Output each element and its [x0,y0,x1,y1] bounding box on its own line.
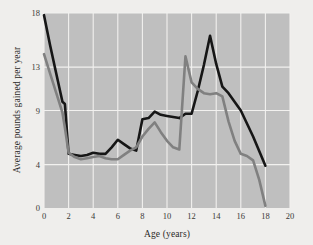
y-tick-label: 18 [32,8,41,18]
y-tick-label: 9 [36,106,40,116]
y-axis-title: Average pounds gained per year [12,30,22,190]
y-tick-label: 13 [32,62,41,72]
y-tick-label: 0 [36,203,40,213]
x-tick-label: 6 [116,211,120,221]
x-tick-label: 4 [91,211,95,221]
y-tick-label: 4 [36,160,40,170]
x-tick-label: 0 [42,211,46,221]
x-tick-label: 2 [66,211,70,221]
x-tick-label: 16 [237,211,246,221]
series-line-dark-series [44,15,265,166]
gridlines-group [44,13,290,208]
x-tick-label: 8 [140,211,144,221]
x-tick-label: 20 [286,211,295,221]
x-tick-label: 12 [187,211,196,221]
x-tick-label: 14 [212,211,221,221]
line-chart-canvas [0,0,313,245]
chart-figure: 0491318 02468101214161820 Average pounds… [0,0,313,245]
x-tick-label: 18 [261,211,270,221]
series-line-gray-series [44,54,265,206]
x-axis-title: Age (years) [44,229,290,239]
x-tick-label: 10 [163,211,172,221]
